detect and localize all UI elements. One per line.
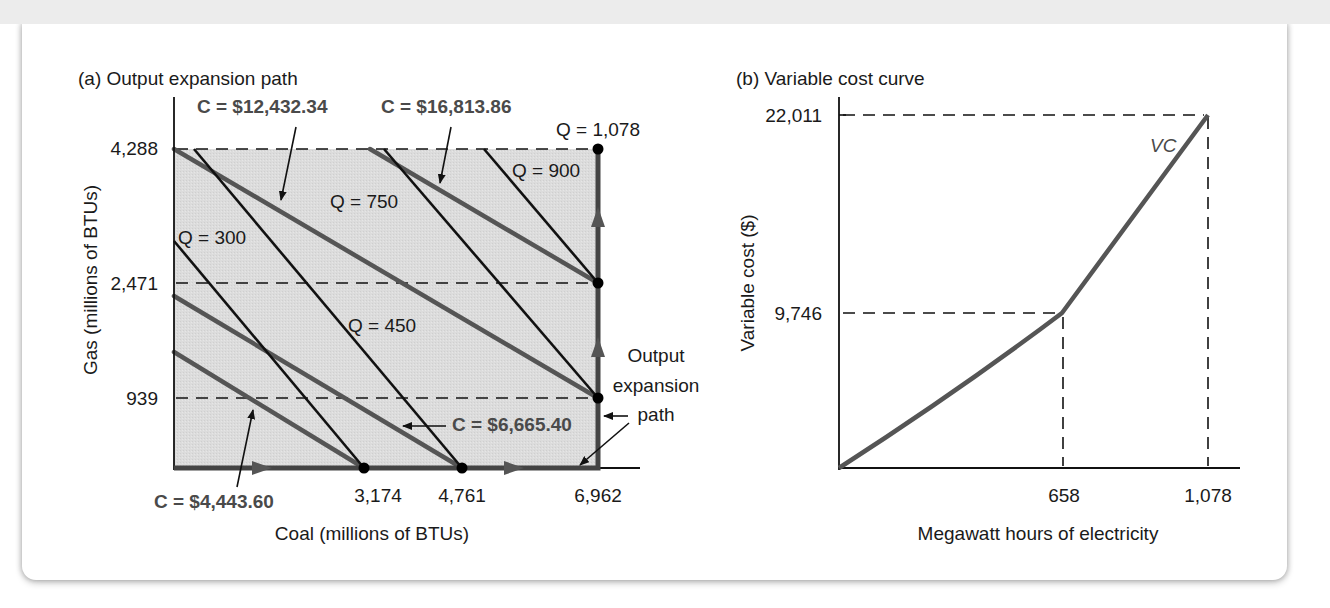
label-c12432: C = $12,432.34 (197, 96, 328, 117)
label-c16813: C = $16,813.86 (381, 96, 511, 117)
panel-b-variable-cost-curve: (b) Variable cost curve 22,011 9,746 658… (736, 68, 1240, 544)
label-q900: Q = 900 (512, 160, 580, 181)
x-tick-658: 658 (1048, 485, 1080, 506)
x-axis-label-a: Coal (millions of BTUs) (275, 523, 469, 544)
label-q450: Q = 450 (348, 315, 416, 336)
x-tick-6962: 6,962 (574, 485, 622, 506)
path-label-line2: expansion (613, 375, 700, 396)
path-label-line1: Output (627, 345, 685, 366)
dashed-guides-b (843, 115, 1208, 466)
path-label-line3: path (638, 404, 675, 425)
y-tick-22011: 22,011 (765, 105, 822, 126)
panel-b-title: (b) Variable cost curve (736, 68, 925, 89)
x-tick-1078: 1,078 (1184, 485, 1232, 506)
y-axis-label-b: Variable cost ($) (737, 215, 758, 352)
vc-label: VC (1150, 135, 1177, 156)
x-tick-4761: 4,761 (438, 485, 486, 506)
label-q1078: Q = 1,078 (556, 119, 640, 140)
x-axis-label-b: Megawatt hours of electricity (918, 523, 1159, 544)
panel-a-title: (a) Output expansion path (78, 68, 298, 89)
y-tick-2471: 2,471 (110, 273, 158, 294)
y-tick-9746: 9,746 (774, 303, 822, 324)
panel-a-output-expansion-path: (a) Output expansion path (78, 68, 699, 544)
label-c6665: C = $6,665.40 (452, 414, 572, 435)
y-axis-label-a: Gas (millions of BTUs) (80, 185, 101, 375)
label-c4443: C = $4,443.60 (154, 491, 274, 512)
y-tick-4288: 4,288 (110, 138, 158, 159)
vc-curve (839, 115, 1208, 468)
label-q300: Q = 300 (178, 227, 246, 248)
y-tick-939: 939 (126, 388, 158, 409)
label-q750: Q = 750 (330, 191, 398, 212)
x-tick-3174: 3,174 (354, 485, 402, 506)
